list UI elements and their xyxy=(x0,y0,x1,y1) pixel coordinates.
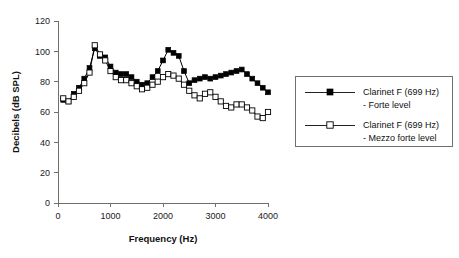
data-point-open-square xyxy=(260,115,265,120)
data-point-open-square xyxy=(103,58,108,63)
y-tick-label: 120 xyxy=(35,16,50,26)
data-point-open-square xyxy=(129,81,134,86)
data-point-filled-square xyxy=(166,47,171,52)
data-point-open-square xyxy=(234,102,239,107)
data-point-filled-square xyxy=(187,81,192,86)
y-tick-label: 80 xyxy=(40,77,50,87)
data-point-open-square xyxy=(223,103,228,108)
data-point-filled-square xyxy=(129,75,134,80)
data-point-filled-square xyxy=(208,76,213,81)
y-axis: 020406080100120 xyxy=(35,16,58,208)
y-tick-label: 100 xyxy=(35,47,50,57)
data-point-filled-square xyxy=(203,75,208,80)
data-point-open-square xyxy=(255,114,260,119)
x-axis-title: Frequency (Hz) xyxy=(129,233,198,244)
data-point-filled-square xyxy=(218,73,223,78)
legend-marker-filled-square xyxy=(327,89,333,95)
data-point-filled-square xyxy=(260,85,265,90)
data-point-open-square xyxy=(82,81,87,86)
data-point-open-square xyxy=(181,82,186,87)
data-point-filled-square xyxy=(161,58,166,63)
data-point-open-square xyxy=(145,85,150,90)
data-point-filled-square xyxy=(171,50,176,55)
data-point-filled-square xyxy=(245,72,250,77)
data-point-open-square xyxy=(92,43,97,48)
data-point-open-square xyxy=(139,87,144,92)
data-point-open-square xyxy=(150,82,155,87)
data-point-open-square xyxy=(134,84,139,89)
data-point-open-square xyxy=(176,76,181,81)
data-point-filled-square xyxy=(182,69,187,74)
data-point-filled-square xyxy=(197,76,202,81)
data-point-filled-square xyxy=(234,69,239,74)
y-tick-label: 0 xyxy=(45,198,50,208)
data-point-open-square xyxy=(108,68,113,73)
data-point-open-square xyxy=(166,71,171,76)
data-point-open-square xyxy=(66,99,71,104)
data-point-open-square xyxy=(160,75,165,80)
data-point-open-square xyxy=(265,109,270,114)
x-tick-label: 1000 xyxy=(100,211,120,221)
legend: Clarinet F (699 Hz)- Forte levelClarinet… xyxy=(296,77,453,147)
legend-label-line1: Clarinet F (699 Hz) xyxy=(363,120,439,130)
y-axis-tick-labels: 020406080100120 xyxy=(35,16,50,208)
data-point-open-square xyxy=(155,79,160,84)
data-point-open-square xyxy=(76,88,81,93)
data-point-filled-square xyxy=(224,72,229,77)
x-axis-ticks xyxy=(58,203,268,207)
data-point-open-square xyxy=(202,91,207,96)
data-point-filled-square xyxy=(155,69,160,74)
data-point-filled-square xyxy=(229,70,234,75)
data-point-filled-square xyxy=(150,75,155,80)
y-tick-label: 20 xyxy=(40,168,50,178)
x-axis: 01000200030004000 xyxy=(55,203,278,221)
x-tick-label: 4000 xyxy=(258,211,278,221)
legend-label-line2: - Forte level xyxy=(363,100,411,110)
y-tick-label: 40 xyxy=(40,138,50,148)
x-tick-label: 3000 xyxy=(205,211,225,221)
data-point-filled-square xyxy=(124,72,129,77)
data-point-open-square xyxy=(218,99,223,104)
data-point-open-square xyxy=(229,105,234,110)
y-tick-label: 60 xyxy=(40,107,50,117)
data-point-filled-square xyxy=(213,75,218,80)
data-point-filled-square xyxy=(255,81,260,86)
data-point-open-square xyxy=(250,108,255,113)
legend-label-line1: Clarinet F (699 Hz) xyxy=(363,87,439,97)
data-point-filled-square xyxy=(119,72,124,77)
data-point-open-square xyxy=(71,94,76,99)
y-axis-title: Decibels (dB SPL) xyxy=(10,71,21,153)
y-axis-ticks xyxy=(54,21,58,203)
chart-canvas: 020406080100120 01000200030004000 Freque… xyxy=(0,0,459,258)
data-point-open-square xyxy=(124,78,129,83)
data-point-open-square xyxy=(244,105,249,110)
data-point-filled-square xyxy=(176,53,181,58)
data-point-open-square xyxy=(187,88,192,93)
data-point-filled-square xyxy=(266,90,271,95)
data-point-open-square xyxy=(239,102,244,107)
data-point-open-square xyxy=(171,73,176,78)
x-axis-tick-labels: 01000200030004000 xyxy=(55,211,278,221)
data-point-filled-square xyxy=(250,76,255,81)
legend-label-line2: - Mezzo forte level xyxy=(363,133,437,143)
x-tick-label: 2000 xyxy=(153,211,173,221)
legend-marker-open-square xyxy=(327,122,333,128)
spectrum-chart-figure: 020406080100120 01000200030004000 Freque… xyxy=(0,0,459,258)
data-point-open-square xyxy=(213,94,218,99)
data-point-open-square xyxy=(61,96,66,101)
data-point-open-square xyxy=(192,93,197,98)
data-series-layer xyxy=(61,43,271,121)
x-tick-label: 0 xyxy=(55,211,60,221)
data-point-open-square xyxy=(118,78,123,83)
data-point-open-square xyxy=(97,52,102,57)
data-point-filled-square xyxy=(192,78,197,83)
data-point-open-square xyxy=(208,90,213,95)
data-point-open-square xyxy=(197,96,202,101)
data-point-open-square xyxy=(113,75,118,80)
data-point-filled-square xyxy=(239,67,244,72)
data-point-open-square xyxy=(87,70,92,75)
